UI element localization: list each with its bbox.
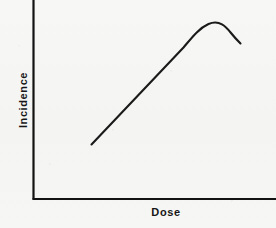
- plot-area: [0, 0, 276, 228]
- y-axis-label: Incidence: [17, 71, 29, 127]
- x-axis-label: Dose: [0, 206, 276, 218]
- dose-response-curve: [92, 23, 241, 145]
- chart-figure: Incidence Dose: [0, 0, 276, 228]
- y-axis-label-container: Incidence: [14, 0, 32, 199]
